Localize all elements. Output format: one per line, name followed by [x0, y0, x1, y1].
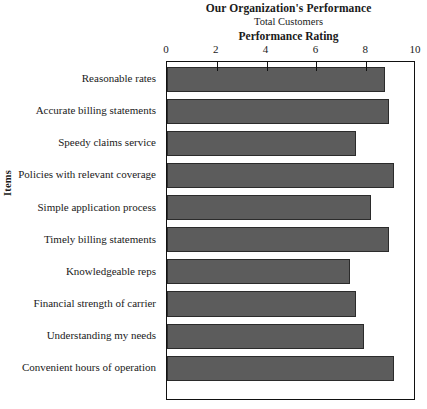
x-tick-label: 0 [163, 43, 169, 55]
x-tick-label: 2 [213, 43, 219, 55]
x-tick-mark [217, 62, 218, 71]
bar [167, 259, 350, 284]
bar [167, 227, 389, 252]
bar [167, 291, 356, 316]
y-category-label: Simple application process [37, 200, 156, 213]
bar [167, 67, 385, 92]
bars-layer [167, 62, 414, 399]
bar [167, 324, 364, 349]
bar [167, 195, 371, 220]
y-category-label: Accurate billing statements [36, 104, 156, 117]
y-category-label: Policies with relevant coverage [18, 168, 156, 181]
x-tick-mark [366, 62, 367, 71]
x-tick-mark [267, 62, 268, 71]
y-category-label: Convenient hours of operation [22, 361, 156, 374]
bar [167, 131, 356, 156]
x-tick-label: 10 [410, 43, 421, 55]
x-tick-label: 4 [263, 43, 269, 55]
y-category-label: Knowledgeable reps [66, 264, 156, 277]
y-category-label: Understanding my needs [47, 329, 156, 342]
bar [167, 163, 394, 188]
x-axis-tick-labels: 0246810 [0, 43, 427, 56]
y-category-label: Timely billing statements [44, 232, 156, 245]
chart-title: Our Organization's Performance [150, 2, 427, 15]
x-tick-label: 8 [362, 43, 368, 55]
y-axis-category-labels: Reasonable ratesAccurate billing stateme… [0, 61, 160, 400]
chart-title-block: Our Organization's Performance Total Cus… [150, 2, 427, 28]
bar [167, 356, 394, 381]
bar-chart: Our Organization's Performance Total Cus… [0, 0, 427, 409]
x-tick-mark [316, 62, 317, 71]
y-category-label: Speedy claims service [58, 136, 156, 149]
x-tick-label: 6 [313, 43, 319, 55]
chart-subtitle: Total Customers [150, 15, 427, 28]
x-axis-title: Performance Rating [150, 30, 427, 42]
bar [167, 99, 389, 124]
plot-area [166, 61, 415, 400]
y-category-label: Reasonable rates [82, 72, 156, 85]
y-category-label: Financial strength of carrier [34, 296, 156, 309]
